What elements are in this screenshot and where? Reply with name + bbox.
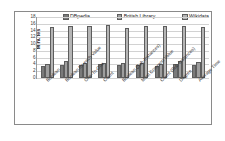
y-tick-label: 18 <box>30 15 35 20</box>
y-tick-label: 14 <box>30 28 35 33</box>
bars-layer <box>37 17 209 78</box>
x-axis-tick-labels: BooleanBoolean for each ValueOne-To-OneC… <box>36 80 208 124</box>
y-tick-label: 4 <box>33 62 36 67</box>
plot-area: 181614121086420 <box>36 17 209 79</box>
y-tick-label: 2 <box>33 69 36 74</box>
bar-wikidata <box>201 27 205 78</box>
y-tick-label: 6 <box>33 55 36 60</box>
y-tick-label: 8 <box>33 49 36 54</box>
y-tick-label: 12 <box>30 35 35 40</box>
y-tick-label: 16 <box>30 21 35 26</box>
bar-group <box>114 17 133 78</box>
chart-container: Minutes DBpedia British Library Wikidata… <box>14 11 212 125</box>
y-tick-label: 10 <box>30 42 35 47</box>
